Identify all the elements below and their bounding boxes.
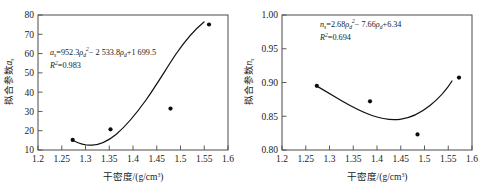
x-tick-label: 1.25 <box>53 154 70 164</box>
svg-text:干密度/(g/cm3): 干密度/(g/cm3) <box>103 171 164 183</box>
x-tick-label: 1.5 <box>175 154 187 164</box>
y-axis-title: 拟合参数ns <box>243 59 255 106</box>
chart-svg-left: 10 20 30 40 50 60 70 80 <box>0 0 241 191</box>
y-tick-label: 50 <box>25 68 35 78</box>
y-tick-label: 20 <box>25 126 35 136</box>
svg-text:干密度/(g/cm3): 干密度/(g/cm3) <box>346 171 407 183</box>
x-tick-label: 1.4 <box>371 154 383 164</box>
y-tick-label: 40 <box>25 88 35 98</box>
y-axis-ticks <box>282 15 287 150</box>
data-point <box>456 76 460 80</box>
y-tick-label: 30 <box>25 107 35 117</box>
plot-frame <box>38 15 228 150</box>
y-axis-tick-labels: 0.80 0.85 0.90 0.95 1.00 <box>261 10 278 155</box>
y-tick-label: 0.90 <box>261 78 278 88</box>
x-axis-tick-labels: 1.2 1.25 1.3 1.35 1.4 1.45 1.5 1.55 1.6 <box>276 154 478 164</box>
x-tick-label: 1.4 <box>127 154 139 164</box>
data-points <box>314 76 460 137</box>
x-tick-label: 1.3 <box>323 154 335 164</box>
data-points <box>71 22 212 142</box>
x-tick-label: 1.45 <box>148 154 165 164</box>
y-axis-title-name: 拟合参数 <box>243 65 254 105</box>
y-axis-title-symbol-sub: s <box>9 59 15 61</box>
y-tick-label: 0.95 <box>261 44 278 54</box>
y-axis-title: 拟合参数as <box>3 59 15 106</box>
y-axis-tick-labels: 10 20 30 40 50 60 70 80 <box>25 10 35 155</box>
x-tick-label: 1.35 <box>101 154 118 164</box>
x-tick-label: 1.45 <box>392 154 409 164</box>
fit-r-squared: R2=0.983 <box>49 60 81 71</box>
y-tick-label: 70 <box>25 30 35 40</box>
y-axis-title-symbol-sub: s <box>249 59 255 61</box>
x-axis-title: 干密度/(g/cm3) <box>346 171 407 183</box>
svg-text:拟合参数ns: 拟合参数ns <box>243 59 255 106</box>
x-tick-label: 1.2 <box>276 154 288 164</box>
x-tick-label: 1.6 <box>466 154 478 164</box>
fit-r-squared: R2=0.694 <box>319 32 351 43</box>
chart-panel-right: 0.80 0.85 0.90 0.95 1.00 1.2 <box>242 0 483 191</box>
y-tick-label: 80 <box>25 10 35 20</box>
x-tick-label: 1.55 <box>196 154 213 164</box>
x-axis-title: 干密度/(g/cm3) <box>103 171 164 183</box>
x-tick-label: 1.25 <box>297 154 314 164</box>
x-axis-title-unit-open: (g/cm <box>379 172 402 183</box>
data-point <box>108 127 112 131</box>
y-axis-ticks <box>38 15 43 150</box>
plot-frame <box>282 15 472 150</box>
x-tick-label: 1.5 <box>418 154 430 164</box>
figure-container: 10 20 30 40 50 60 70 80 <box>0 0 483 191</box>
x-tick-label: 1.2 <box>32 154 44 164</box>
data-point <box>168 107 172 111</box>
y-tick-label: 1.00 <box>261 10 278 20</box>
y-axis-title-name: 拟合参数 <box>3 65 14 105</box>
x-tick-label: 1.55 <box>439 154 456 164</box>
data-point <box>71 138 75 142</box>
x-tick-label: 1.35 <box>344 154 361 164</box>
y-tick-label: 0.85 <box>261 112 278 122</box>
chart-svg-right: 0.80 0.85 0.90 0.95 1.00 1.2 <box>242 0 483 191</box>
x-axis-title-unit-close: ) <box>160 172 163 183</box>
x-tick-label: 1.6 <box>222 154 234 164</box>
x-axis-tick-labels: 1.2 1.25 1.3 1.35 1.4 1.45 1.5 1.55 1.6 <box>32 154 234 164</box>
chart-panel-left: 10 20 30 40 50 60 70 80 <box>0 0 242 191</box>
x-axis-title-name: 干密度 <box>103 171 133 182</box>
data-point <box>314 84 318 88</box>
fit-equation: ns=2.68ρd2− 7.66ρd+6.34 <box>320 18 401 30</box>
y-tick-label: 60 <box>25 49 35 59</box>
fit-equation: as=952.3ρd2− 2 533.8ρd+1 699.5 <box>50 46 156 58</box>
x-axis-ticks <box>282 146 472 151</box>
equation-annotation: ns=2.68ρd2− 7.66ρd+6.34 R2=0.694 <box>319 18 401 42</box>
equation-annotation: as=952.3ρd2− 2 533.8ρd+1 699.5 R2=0.983 <box>49 46 156 70</box>
data-point <box>207 22 211 26</box>
fit-curve <box>74 22 204 145</box>
data-point <box>367 99 371 103</box>
data-point <box>415 132 419 136</box>
svg-text:拟合参数as: 拟合参数as <box>3 59 15 106</box>
x-axis-ticks <box>38 146 228 151</box>
fit-curve <box>318 81 452 120</box>
x-axis-title-name: 干密度 <box>346 171 376 182</box>
x-axis-title-unit-close: ) <box>404 172 407 183</box>
x-tick-label: 1.3 <box>80 154 92 164</box>
x-axis-title-unit-open: (g/cm <box>135 172 158 183</box>
